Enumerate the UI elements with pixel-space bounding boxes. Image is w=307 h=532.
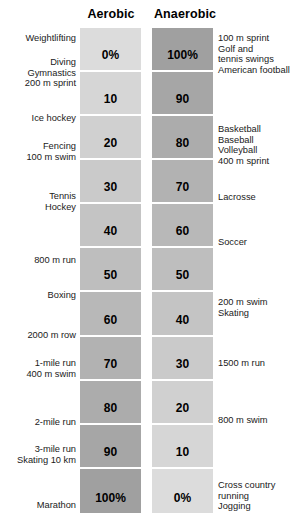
sport-label-right: Lacrosse — [218, 192, 307, 203]
anaerobic-cell: 60 — [152, 204, 213, 248]
aerobic-anaerobic-chart: Aerobic Anaerobic 0%10203040506070809010… — [0, 0, 307, 532]
anaerobic-cell: 100% — [152, 28, 213, 72]
aerobic-value: 60 — [104, 314, 117, 335]
anaerobic-cell: 10 — [152, 425, 213, 469]
aerobic-cell: 30 — [80, 160, 141, 204]
anaerobic-cell: 70 — [152, 160, 213, 204]
aerobic-cell: 40 — [80, 204, 141, 248]
sport-label-right: 100 m sprint Golf and tennis swings Amer… — [218, 33, 307, 75]
anaerobic-value: 90 — [176, 93, 189, 114]
aerobic-value: 30 — [104, 181, 117, 202]
anaerobic-cell: 30 — [152, 337, 213, 381]
aerobic-value: 90 — [104, 446, 117, 467]
aerobic-value: 100% — [95, 492, 126, 513]
anaerobic-value: 40 — [176, 314, 189, 335]
sport-label-left: 1-mile run 400 m swim — [0, 358, 76, 379]
sport-label-left: 800 m run — [0, 255, 76, 266]
anaerobic-cell: 0% — [152, 469, 213, 513]
sport-label-left: Tennis Hockey — [0, 191, 76, 212]
anaerobic-value: 100% — [167, 49, 198, 70]
anaerobic-cell: 80 — [152, 116, 213, 160]
sport-label-left: Boxing — [0, 290, 76, 301]
aerobic-cell: 60 — [80, 292, 141, 336]
anaerobic-value: 10 — [176, 446, 189, 467]
sport-label-left: 2000 m row — [0, 330, 76, 341]
anaerobic-cell: 50 — [152, 248, 213, 292]
aerobic-cell: 80 — [80, 381, 141, 425]
aerobic-cell: 70 — [80, 337, 141, 381]
aerobic-value: 20 — [104, 137, 117, 158]
column-header-anaerobic: Anaerobic — [146, 7, 224, 21]
anaerobic-cell: 40 — [152, 292, 213, 336]
aerobic-cell: 20 — [80, 116, 141, 160]
aerobic-cell: 10 — [80, 72, 141, 116]
anaerobic-cell: 90 — [152, 72, 213, 116]
aerobic-value: 40 — [104, 225, 117, 246]
aerobic-cell: 90 — [80, 425, 141, 469]
anaerobic-column: 100%9080706050403020100% — [152, 28, 213, 513]
sport-label-left: Ice hockey — [0, 113, 76, 124]
aerobic-cell: 0% — [80, 28, 141, 72]
sport-label-right: Basketball Baseball Volleyball 400 m spr… — [218, 124, 307, 166]
sport-label-left: Fencing 100 m swim — [0, 141, 76, 162]
anaerobic-value: 30 — [176, 358, 189, 379]
sport-label-right: Soccer — [218, 237, 307, 248]
chart-header: Aerobic Anaerobic — [0, 7, 307, 27]
sport-label-right: 1500 m run — [218, 358, 307, 369]
aerobic-cell: 100% — [80, 469, 141, 513]
aerobic-value: 50 — [104, 269, 117, 290]
aerobic-column: 0%102030405060708090100% — [80, 28, 141, 513]
sport-label-right: Cross country running Jogging — [218, 480, 307, 512]
sport-label-left: Weightlifting — [0, 33, 76, 44]
anaerobic-value: 60 — [176, 225, 189, 246]
sport-label-left: 3-mile run Skating 10 km — [0, 444, 76, 465]
sport-label-right: 800 m swim — [218, 415, 307, 426]
sport-label-right: 200 m swim Skating — [218, 297, 307, 318]
anaerobic-value: 80 — [176, 137, 189, 158]
aerobic-value: 80 — [104, 402, 117, 423]
column-header-aerobic: Aerobic — [72, 7, 150, 21]
sport-label-left: 2-mile run — [0, 417, 76, 428]
aerobic-value: 0% — [102, 49, 119, 70]
sport-label-left: Marathon — [0, 500, 76, 511]
aerobic-value: 70 — [104, 358, 117, 379]
aerobic-value: 10 — [104, 93, 117, 114]
anaerobic-value: 50 — [176, 269, 189, 290]
anaerobic-cell: 20 — [152, 381, 213, 425]
sport-label-left: Diving Gymnastics 200 m sprint — [0, 57, 76, 89]
anaerobic-value: 20 — [176, 402, 189, 423]
anaerobic-value: 70 — [176, 181, 189, 202]
aerobic-cell: 50 — [80, 248, 141, 292]
anaerobic-value: 0% — [174, 492, 191, 513]
